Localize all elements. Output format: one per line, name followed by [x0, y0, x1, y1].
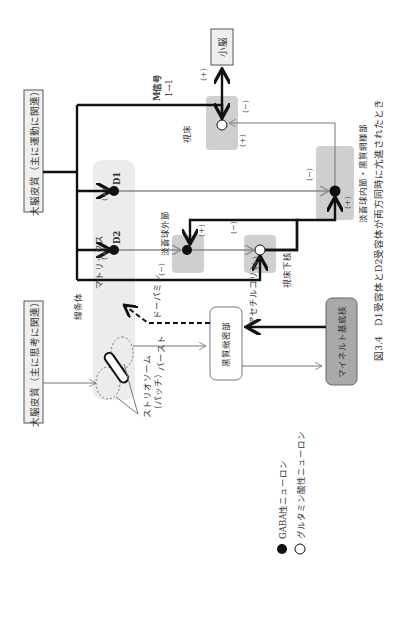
thalamus-label: 視床 — [182, 125, 192, 143]
matrix-label: マトリックス — [94, 235, 104, 289]
stn-to-gpe — [190, 220, 297, 250]
legend-glutamate-label: グルタミン酸性ニューロン — [296, 431, 306, 539]
meynert-label: マイネルト基底核 — [337, 306, 347, 378]
gpe-label: 淡蒼球外節 — [160, 211, 170, 256]
d1-neuron — [109, 186, 119, 196]
d2-label: D2 — [112, 231, 122, 244]
legend: GABA性ニューロン グルタミン酸性ニューロン — [277, 431, 306, 554]
sign-cortex-thalamus: (+) — [238, 134, 247, 147]
snc-label: 黒質緻密部 — [221, 322, 231, 367]
basal-ganglia-diagram: 大脳皮質（主に思考に関連） 大脳皮質（主に運動に関連） 小脳 黒質緻密部 マイネ… — [0, 0, 404, 621]
meynert-box: マイネルト基底核 — [326, 298, 357, 385]
m-signal-label: M信号 — [152, 74, 162, 101]
cerebellum-label: 小脳 — [217, 37, 228, 57]
cerebellum-box: 小脳 — [211, 29, 233, 65]
sign-d2-input: (+) — [100, 247, 109, 260]
legend-gaba-icon — [277, 544, 287, 554]
gpe-neuron — [182, 245, 192, 255]
sign-stn-gpi: (+) — [343, 196, 352, 209]
stn-label: 視床下核 — [282, 252, 292, 288]
patch-label: （パッチ） — [153, 369, 163, 414]
m-signal-value: 1→1 — [164, 79, 174, 97]
cortex-thought-box: 大脳皮質（主に思考に関連） — [24, 297, 43, 427]
dopamine-label: ドーパミン — [152, 274, 162, 319]
d1-label: D1 — [112, 172, 122, 185]
sign-d1-gpi: (−) — [305, 168, 314, 181]
thalamus-neuron — [217, 120, 227, 130]
dopamine-pathway — [124, 305, 210, 323]
figure-rotated: 大脳皮質（主に思考に関連） 大脳皮質（主に運動に関連） 小脳 黒質緻密部 マイネ… — [0, 0, 404, 621]
sign-gpe-stn: (−) — [229, 221, 238, 234]
gpi-snr-label: 淡蒼球内節・黒質網様部 — [358, 124, 368, 223]
legend-gaba-label: GABA性ニューロン — [278, 460, 288, 539]
cortex-thought-label: 大脳皮質（主に思考に関連） — [29, 297, 40, 427]
sign-stn-gpe: (+) — [197, 224, 206, 237]
sign-d1-input: (+) — [100, 188, 109, 201]
burst-label: バースト — [156, 335, 166, 371]
stn-neuron — [255, 245, 265, 255]
striatum-label: 線条体 — [73, 293, 83, 320]
snc-box: 黒質緻密部 — [210, 307, 242, 380]
legend-glutamate-icon — [295, 544, 305, 554]
sign-d2-gpe: (−) — [157, 263, 166, 276]
d2-neuron — [109, 245, 119, 255]
acetylcholine-label: アセチルコリン — [248, 262, 258, 325]
sign-thalamus-cerebellum: (+) — [199, 68, 208, 81]
sign-gpi-thalamus: (−) — [241, 100, 250, 113]
sign-cortex-stn: (+) — [251, 256, 260, 269]
cortex-motor-label: 大脳皮質（主に運動に関連） — [29, 86, 40, 216]
striosome-label: ストリオソーム — [142, 355, 152, 418]
cortex-motor-box: 大脳皮質（主に運動に関連） — [24, 86, 43, 216]
gpi-neuron — [330, 186, 341, 197]
figure-caption: 図3.4 D1受容体とD2受容体が両方同時に亢進されたとき — [373, 99, 384, 361]
